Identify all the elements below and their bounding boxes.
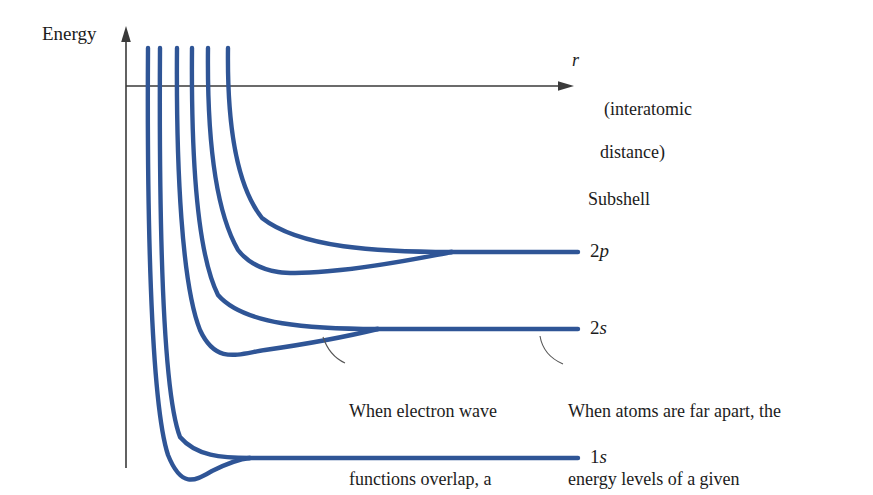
annotation-far-apart-note: When atoms are far apart, the energy lev… (568, 354, 836, 495)
annotation-far-apart-note-line-1: When atoms are far apart, the (568, 400, 836, 423)
x-axis-caption-line1: (interatomic (604, 99, 692, 119)
legend-header: Subshell (588, 189, 650, 210)
level-label-2p-prefix: 2 (590, 240, 600, 261)
annotation-far-apart-note-line-2: energy levels of a given (568, 468, 836, 491)
level-label-2s-italic: s (600, 317, 607, 338)
x-axis-symbol: r (572, 50, 579, 71)
annotation-split-note: When electron wave functions overlap, a … (349, 354, 564, 495)
level-label-2p: 2p (590, 240, 609, 262)
curve-2s-upper (192, 48, 378, 329)
curve-2p-lower (208, 48, 452, 273)
energy-level-splitting-figure: Energy r (interatomic distance) Subshell… (0, 0, 873, 495)
y-axis-label: Energy (42, 23, 97, 45)
annotation-split-note-line-1: When electron wave (349, 400, 564, 423)
annotation-split-note-line-2: functions overlap, a (349, 468, 564, 491)
x-axis-caption-line2: distance) (600, 142, 692, 163)
level-label-2s: 2s (590, 317, 607, 339)
level-label-2s-prefix: 2 (590, 317, 600, 338)
curve-2p-upper (228, 48, 452, 252)
x-axis-caption: (interatomic distance) (586, 78, 692, 205)
y-axis (121, 26, 131, 468)
level-label-2p-italic: p (600, 240, 610, 261)
